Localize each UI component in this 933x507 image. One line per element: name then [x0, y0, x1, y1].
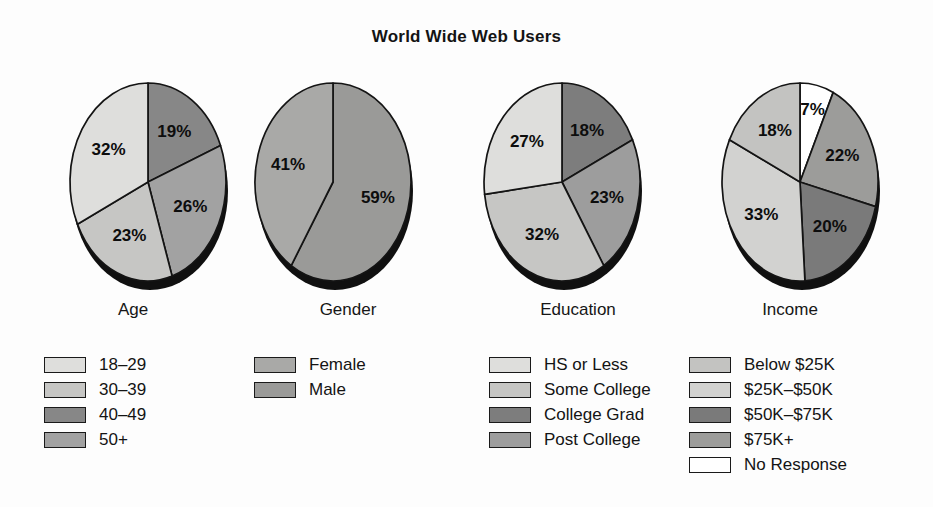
legend-swatch: [489, 432, 531, 448]
legend-swatch: [489, 407, 531, 423]
pie-chart-age: 19%26%23%32%: [58, 78, 238, 278]
legend-item[interactable]: 30–39: [44, 377, 146, 402]
legend-swatch: [689, 382, 731, 398]
legend-swatch: [44, 407, 86, 423]
chart-figure: World Wide Web Users 19%26%23%32% 59%41%…: [0, 0, 933, 507]
slice-value-label: 41%: [271, 155, 305, 174]
legend-label: 40–49: [99, 405, 146, 425]
legend-gender: FemaleMale: [254, 352, 366, 402]
pie-chart-gender: 59%41%: [243, 78, 423, 278]
legend-item[interactable]: No Response: [689, 452, 847, 477]
legend-label: Female: [309, 355, 366, 375]
legend-item[interactable]: $75K+: [689, 427, 847, 452]
slice-value-label: 32%: [91, 140, 125, 159]
legend-swatch: [689, 432, 731, 448]
legend-swatch: [44, 357, 86, 373]
pie-panel-gender: 59%41%: [243, 78, 423, 278]
legend-income: Below $25K$25K–$50K$50K–$75K$75K+No Resp…: [689, 352, 847, 477]
slice-value-label: 19%: [157, 122, 191, 141]
legend-label: 18–29: [99, 355, 146, 375]
legend-label: Below $25K: [744, 355, 835, 375]
slice-value-label: 33%: [744, 205, 778, 224]
pie-panel-education: 18%23%32%27%: [472, 78, 652, 278]
legend-swatch: [489, 382, 531, 398]
legend-label: 30–39: [99, 380, 146, 400]
slice-value-label: 7%: [800, 100, 825, 119]
legend-swatch: [44, 432, 86, 448]
category-label-gender: Gender: [248, 300, 448, 320]
legend-swatch: [44, 382, 86, 398]
pie-chart-education: 18%23%32%27%: [472, 78, 652, 278]
legend-label: 50+: [99, 430, 128, 450]
legend-item[interactable]: HS or Less: [489, 352, 651, 377]
legend-label: $25K–$50K: [744, 380, 833, 400]
legend-label: Post College: [544, 430, 640, 450]
legend-item[interactable]: Below $25K: [689, 352, 847, 377]
slice-value-label: 23%: [590, 188, 624, 207]
legend-label: No Response: [744, 455, 847, 475]
legend-label: Male: [309, 380, 346, 400]
slice-value-label: 32%: [525, 225, 559, 244]
legend-label: HS or Less: [544, 355, 628, 375]
legend-item[interactable]: 50+: [44, 427, 146, 452]
category-label-age: Age: [33, 300, 233, 320]
legend-label: $50K–$75K: [744, 405, 833, 425]
page-title: World Wide Web Users: [0, 27, 933, 47]
legend-label: College Grad: [544, 405, 644, 425]
legend-swatch: [689, 407, 731, 423]
legend-label: Some College: [544, 380, 651, 400]
legend-education: HS or LessSome CollegeCollege GradPost C…: [489, 352, 651, 452]
pie-chart-income: 7%22%20%33%18%: [710, 78, 890, 278]
legend-swatch: [689, 357, 731, 373]
slice-value-label: 59%: [361, 188, 395, 207]
legend-swatch: [689, 457, 731, 473]
legend-item[interactable]: Male: [254, 377, 366, 402]
legend-item[interactable]: $25K–$50K: [689, 377, 847, 402]
slice-value-label: 22%: [825, 146, 859, 165]
pie-panel-age: 19%26%23%32%: [58, 78, 238, 278]
slice-value-label: 18%: [570, 121, 604, 140]
legend-item[interactable]: Post College: [489, 427, 651, 452]
legend-age: 18–2930–3940–4950+: [44, 352, 146, 452]
legend-item[interactable]: Some College: [489, 377, 651, 402]
legend-item[interactable]: 18–29: [44, 352, 146, 377]
slice-value-label: 27%: [510, 132, 544, 151]
slice-value-label: 20%: [813, 217, 847, 236]
slice-value-label: 18%: [758, 121, 792, 140]
category-label-income: Income: [690, 300, 890, 320]
pie-panel-income: 7%22%20%33%18%: [710, 78, 890, 278]
slice-value-label: 23%: [112, 226, 146, 245]
legend-label: $75K+: [744, 430, 794, 450]
slice-value-label: 26%: [173, 197, 207, 216]
category-label-education: Education: [478, 300, 678, 320]
legend-item[interactable]: 40–49: [44, 402, 146, 427]
legend-item[interactable]: College Grad: [489, 402, 651, 427]
legend-item[interactable]: Female: [254, 352, 366, 377]
legend-swatch: [489, 357, 531, 373]
legend-swatch: [254, 382, 296, 398]
legend-swatch: [254, 357, 296, 373]
legend-item[interactable]: $50K–$75K: [689, 402, 847, 427]
